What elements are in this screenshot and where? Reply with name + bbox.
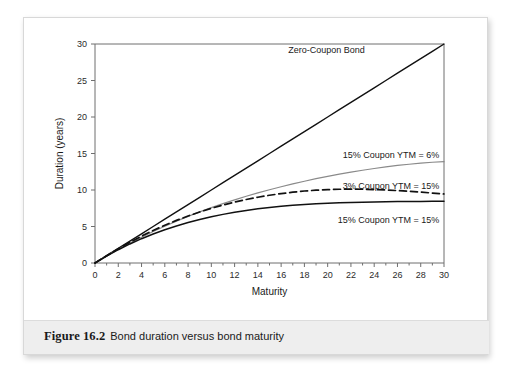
x-tick-label: 30 <box>439 270 449 280</box>
y-tick-label: 5 <box>82 222 87 232</box>
x-tick-label: 0 <box>92 270 97 280</box>
y-tick-label: 30 <box>77 39 87 49</box>
figure-number: Figure 16.2 <box>44 329 105 343</box>
x-tick-label: 12 <box>230 270 240 280</box>
x-tick-label: 20 <box>323 270 333 280</box>
y-tick-label: 20 <box>77 112 87 122</box>
x-tick-label: 14 <box>253 270 263 280</box>
x-tick-label: 26 <box>392 270 402 280</box>
figure-caption: Figure 16.2Bond duration versus bond mat… <box>44 329 284 344</box>
chart-plot-area: 024681012141618202224262830051015202530 … <box>24 18 489 310</box>
series-label-3: 15% Coupon YTM = 15% <box>338 215 440 225</box>
x-tick-label: 18 <box>299 270 309 280</box>
series-label-0: Zero-Coupon Bond <box>288 45 365 55</box>
x-axis-title: Maturity <box>252 286 288 297</box>
figure-description: Bond duration versus bond maturity <box>110 330 284 342</box>
x-tick-label: 10 <box>206 270 216 280</box>
x-tick-label: 24 <box>369 270 379 280</box>
series-curve-2 <box>95 189 444 263</box>
x-tick-label: 28 <box>416 270 426 280</box>
x-tick-label: 22 <box>346 270 356 280</box>
y-tick-label: 25 <box>77 76 87 86</box>
x-tick-label: 4 <box>139 270 144 280</box>
series-curve-1 <box>95 162 444 263</box>
y-tick-label: 0 <box>82 258 87 268</box>
x-tick-label: 8 <box>186 270 191 280</box>
duration-vs-maturity-chart: 024681012141618202224262830051015202530 … <box>24 18 489 310</box>
x-tick-label: 6 <box>162 270 167 280</box>
y-tick-label: 15 <box>77 149 87 159</box>
series-curve-3 <box>95 201 444 263</box>
series-label-2: 3% Coupon YTM = 15% <box>343 181 440 191</box>
caption-band: Figure 16.2Bond duration versus bond mat… <box>24 320 489 354</box>
series-label-1: 15% Coupon YTM = 6% <box>343 150 440 160</box>
y-axis-title: Duration (years) <box>54 118 65 190</box>
y-tick-label: 10 <box>77 185 87 195</box>
figure-card: 024681012141618202224262830051015202530 … <box>23 17 488 355</box>
x-tick-label: 16 <box>276 270 286 280</box>
x-tick-label: 2 <box>116 270 121 280</box>
series-labels-group: Zero-Coupon Bond15% Coupon YTM = 6%3% Co… <box>288 45 439 224</box>
